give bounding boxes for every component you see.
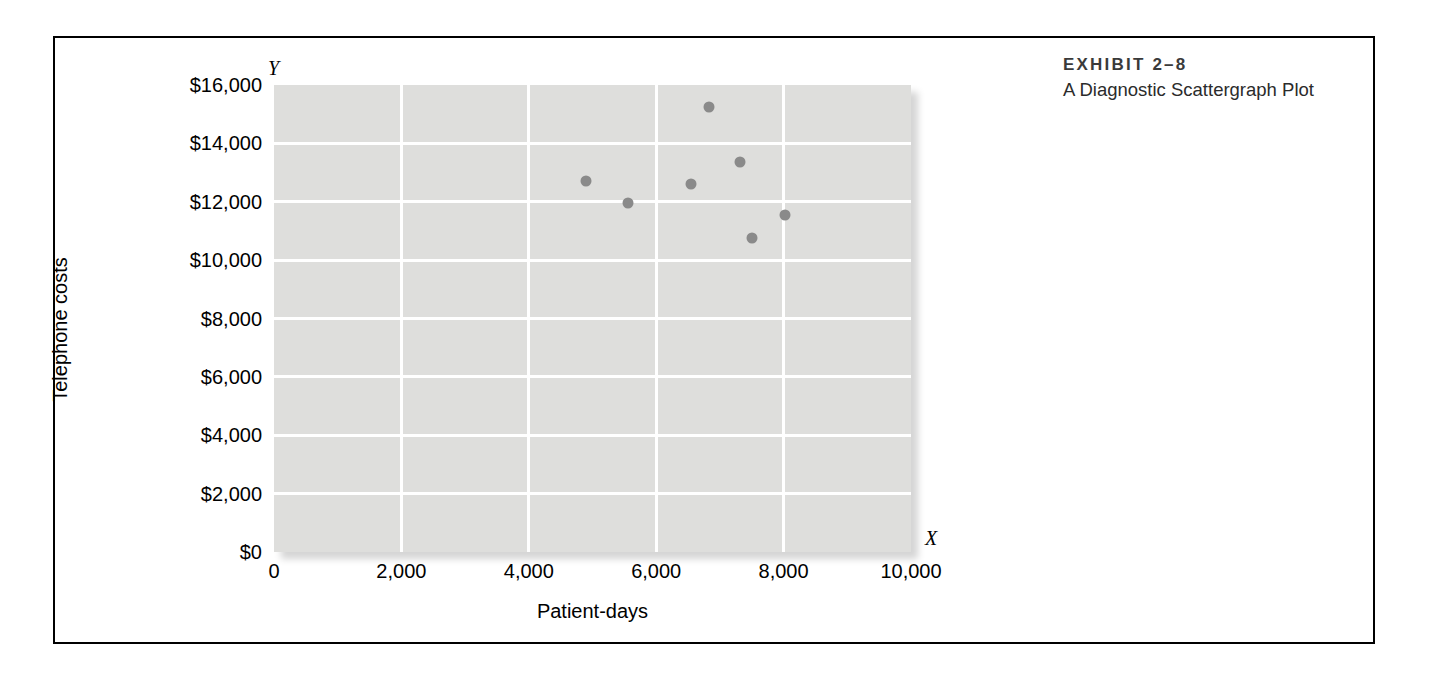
- exhibit-frame: [53, 36, 1375, 644]
- exhibit-number: EXHIBIT 2–8: [1063, 55, 1363, 75]
- exhibit-title: A Diagnostic Scattergraph Plot: [1063, 79, 1363, 101]
- exhibit-caption: EXHIBIT 2–8 A Diagnostic Scattergraph Pl…: [1063, 55, 1363, 101]
